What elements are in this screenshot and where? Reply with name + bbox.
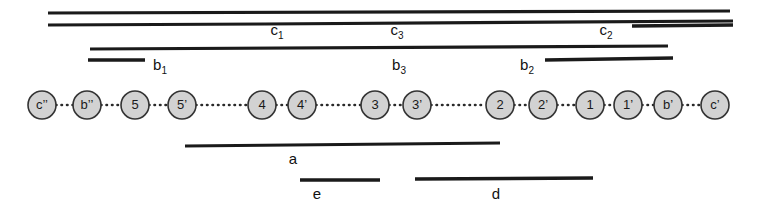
segment-line-c1 [48,24,265,25]
segment-line-c3 [48,11,730,13]
node-label: c’’ [36,97,48,112]
segment-line-a [185,143,500,146]
node-n11: 1 [576,91,604,119]
segment-label-b2: b2 [520,56,534,76]
node-n9: 2 [486,91,514,119]
node-n4: 5’ [168,91,196,119]
node-label: 4’ [297,97,307,112]
node-n1: c’’ [28,91,56,119]
diagram-canvas: c’’b’’55’44’33’22’11’b’c’ c3c1c2b3b1b2ae… [0,0,762,216]
segment-line-c2 [632,25,733,26]
segment-label-a: a [289,150,298,167]
segment-line-c2-long [265,21,733,24]
node-label: c’ [710,97,720,112]
interval-diagram: c’’b’’55’44’33’22’11’b’c’ c3c1c2b3b1b2ae… [0,0,762,216]
node-circles-group: c’’b’’55’44’33’22’11’b’c’ [28,91,729,119]
segment-label-e: e [313,185,321,202]
node-n6: 4’ [288,91,316,119]
node-label: 2 [496,97,503,112]
node-n14: c’ [701,91,729,119]
node-n2: b’’ [73,91,101,119]
node-label: 1 [586,97,593,112]
segment-label-b1: b1 [153,56,167,76]
node-label: 3’ [412,97,422,112]
node-label: 1’ [623,97,633,112]
node-n5: 4 [248,91,276,119]
node-n13: b’ [654,91,682,119]
segment-line-b3 [90,46,668,49]
node-label: 5’ [177,97,187,112]
node-label: b’ [663,97,673,112]
node-label: 3 [371,97,378,112]
node-n7: 3 [361,91,389,119]
node-n3: 5 [121,91,149,119]
segment-label-b3: b3 [392,56,406,76]
node-n10: 2’ [529,91,557,119]
node-label: 2’ [538,97,548,112]
segment-line-b2 [545,58,673,60]
segment-label-d: d [492,185,500,202]
node-n12: 1’ [614,91,642,119]
node-label: 5 [131,97,138,112]
node-label: b’’ [81,97,94,112]
segment-label-c2: c2 [599,21,613,41]
node-label: 4 [258,97,265,112]
segment-line-d [415,178,593,179]
node-n8: 3’ [403,91,431,119]
